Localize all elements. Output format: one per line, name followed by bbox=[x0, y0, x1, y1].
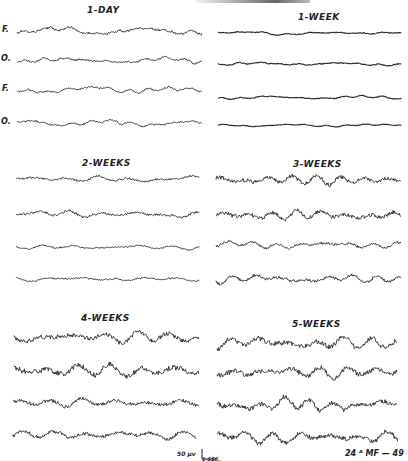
figure-id: 24 ᴬ MF — 49 bbox=[345, 449, 404, 458]
trace-group bbox=[12, 26, 401, 445]
lead-label-frontal-1: F. bbox=[2, 25, 9, 34]
panel-title-1-week: 1-WEEK bbox=[298, 12, 340, 22]
panel-title-1-day: 1-DAY bbox=[87, 5, 119, 15]
lead-label-occipital-2: O. bbox=[1, 117, 11, 126]
eeg-trace bbox=[217, 395, 397, 413]
eeg-trace bbox=[14, 362, 199, 379]
eeg-trace bbox=[16, 277, 199, 282]
eeg-trace bbox=[16, 210, 199, 219]
scale-time-label: 1-SEC. bbox=[202, 456, 220, 461]
eeg-trace bbox=[17, 86, 202, 93]
eeg-trace bbox=[17, 56, 202, 65]
eeg-trace bbox=[216, 209, 401, 221]
eeg-traces bbox=[0, 0, 408, 461]
eeg-trace bbox=[216, 274, 401, 285]
eeg-trace bbox=[17, 119, 202, 127]
eeg-trace bbox=[216, 240, 401, 249]
eeg-trace bbox=[218, 124, 401, 127]
panel-title-2-weeks: 2-WEEKS bbox=[82, 158, 131, 168]
panel-title-5-weeks: 5-WEEKS bbox=[292, 319, 341, 329]
lead-label-occipital-1: O. bbox=[1, 54, 11, 63]
scale-voltage-label: 50 µv bbox=[177, 450, 196, 457]
panel-title-3-weeks: 3-WEEKS bbox=[293, 159, 342, 169]
eeg-trace bbox=[17, 26, 202, 35]
eeg-trace bbox=[217, 336, 397, 351]
panel-title-4-weeks: 4-WEEKS bbox=[81, 313, 130, 323]
eeg-trace bbox=[14, 330, 199, 344]
lead-label-frontal-2: F. bbox=[2, 84, 9, 93]
eeg-trace bbox=[12, 430, 195, 440]
eeg-trace bbox=[218, 32, 401, 36]
eeg-trace bbox=[218, 95, 401, 99]
eeg-trace bbox=[13, 397, 199, 408]
eeg-trace bbox=[217, 430, 398, 445]
eeg-trace bbox=[218, 62, 401, 66]
eeg-trace bbox=[216, 174, 401, 187]
eeg-trace bbox=[217, 366, 397, 381]
eeg-trace bbox=[16, 175, 199, 182]
eeg-trace bbox=[16, 245, 199, 251]
